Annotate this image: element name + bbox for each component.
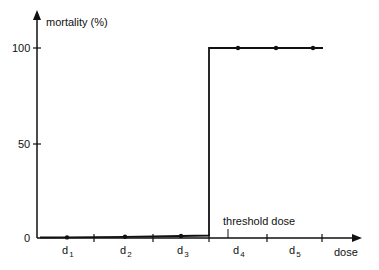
data-point-d2 — [123, 235, 127, 239]
x-axis-arrow-icon — [352, 234, 362, 242]
dose-response-chart: mortality (%) 100 50 0 threshold dose do… — [0, 0, 379, 270]
x-category-d1: d1 — [62, 244, 74, 259]
data-point-d3 — [179, 234, 183, 238]
mortality-series-line — [40, 48, 323, 238]
y-axis-arrow-icon — [33, 10, 41, 20]
x-category-d3: d3 — [177, 244, 189, 259]
x-category-d2: d2 — [120, 244, 132, 259]
data-point-d4 — [236, 46, 240, 50]
x-axis-label: dose — [334, 246, 358, 258]
y-tick-label-0: 0 — [24, 232, 30, 244]
data-point-d5 — [311, 46, 315, 50]
y-axis-label: mortality (%) — [46, 16, 108, 28]
x-category-d5: d5 — [289, 244, 301, 259]
data-point-d1 — [65, 235, 69, 239]
y-tick-label-100: 100 — [12, 42, 30, 54]
data-point-mid — [274, 46, 278, 50]
threshold-dose-label: threshold dose — [223, 215, 295, 227]
y-tick-label-50: 50 — [18, 138, 30, 150]
x-category-d4: d4 — [233, 244, 245, 259]
